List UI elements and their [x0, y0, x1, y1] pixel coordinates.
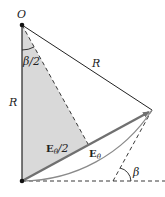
half-angle-label: β/2 [22, 55, 40, 68]
origin-point [20, 23, 25, 28]
vector-label: Eθ [89, 148, 102, 161]
radius-left-label: R [8, 96, 17, 109]
phasor-diagram: O R R β/2 Eθ/2 Eθ β [0, 0, 165, 197]
beta-angle-arc [120, 168, 131, 181]
beta-label: β [132, 166, 139, 179]
radius-right-label: R [91, 57, 100, 70]
origin-label: O [17, 8, 26, 21]
half-vector-label: Eθ/2 [46, 142, 69, 156]
bottom-point [20, 179, 25, 184]
